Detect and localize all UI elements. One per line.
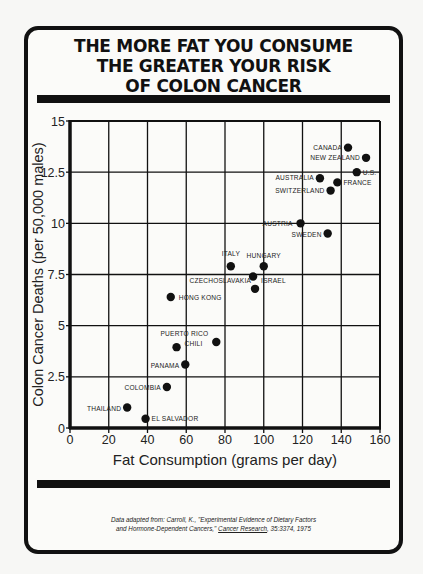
citation-text: and Hormone-Dependent Cancers," (116, 525, 218, 532)
data-point (362, 154, 370, 162)
data-point (212, 338, 220, 346)
point-label: HONG KONG (179, 294, 222, 301)
citation-line-2: and Hormone-Dependent Cancers," Cancer R… (28, 524, 399, 533)
data-point (260, 262, 268, 270)
point-label: SWEDEN (292, 231, 322, 238)
data-point (123, 403, 131, 411)
citation-line-1: Data adapted from: Carroll, K., "Experim… (28, 515, 399, 524)
data-point (344, 143, 352, 151)
citation-ref: , 35:3374, 1975 (267, 525, 311, 532)
y-tick-label: 7.5 (48, 268, 65, 282)
y-tick-label: 15 (51, 115, 65, 129)
data-point (172, 343, 180, 351)
data-point (181, 360, 189, 368)
data-point (227, 262, 235, 270)
data-point (326, 186, 334, 194)
point-label: CHILI (185, 340, 203, 347)
x-tick-label: 20 (102, 433, 116, 447)
point-label: U.S. (363, 169, 377, 176)
x-tick-label: 40 (141, 433, 155, 447)
point-label: PANAMA (151, 362, 180, 369)
point-label: CZECHOSLAVAKIA (189, 277, 251, 284)
data-point (333, 178, 341, 186)
point-label: EL SALVADOR (152, 415, 199, 422)
data-citation: Data adapted from: Carroll, K., "Experim… (28, 515, 399, 533)
point-label: AUSTRIA (263, 220, 293, 227)
x-tick-label: 60 (179, 433, 193, 447)
x-tick-label: 100 (253, 433, 274, 447)
x-tick-label: 0 (67, 433, 74, 447)
x-tick-label: 160 (370, 433, 391, 447)
point-label: NEW ZEALAND (310, 154, 360, 161)
data-point (167, 293, 175, 301)
point-label: HUNGARY (247, 252, 282, 259)
y-tick-label: 0 (58, 422, 65, 436)
y-tick-label: 5 (58, 319, 65, 333)
point-label: CANADA (313, 144, 342, 151)
y-tick-label: 2.5 (48, 370, 65, 384)
x-tick-label: 120 (292, 433, 313, 447)
point-label: SWITZERLAND (275, 187, 324, 194)
point-label: AUSTRALIA (275, 174, 314, 181)
x-tick-label: 80 (218, 433, 232, 447)
data-point (296, 219, 304, 227)
citation-journal: Cancer Research (218, 525, 267, 532)
point-label: FRANCE (343, 179, 372, 186)
point-label: PUERTO RICO (161, 330, 209, 337)
data-point (353, 168, 361, 176)
bottom-divider-bar (37, 480, 390, 488)
data-point (141, 415, 149, 423)
data-point (163, 383, 171, 391)
x-axis-label: Fat Consumption (grams per day) (113, 451, 337, 468)
point-label: THAILAND (87, 405, 121, 412)
data-point (251, 285, 259, 293)
y-axis-label: Colon Cancer Deaths (per 50,000 males) (30, 142, 46, 406)
point-label: ISRAEL (261, 277, 286, 284)
point-label: COLOMBIA (124, 384, 161, 391)
data-point (323, 229, 331, 237)
point-label: ITALY (222, 250, 241, 257)
data-point (316, 174, 324, 182)
x-tick-label: 140 (331, 433, 352, 447)
y-tick-label: 10 (51, 217, 65, 231)
